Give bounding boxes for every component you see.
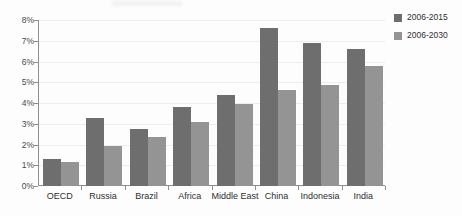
bar — [148, 137, 166, 186]
x-tick-mark — [255, 186, 256, 190]
y-tick-label: 3% — [4, 120, 34, 129]
bar — [278, 90, 296, 186]
y-tick-label: 5% — [4, 78, 34, 87]
x-tick-mark — [125, 186, 126, 190]
bar — [260, 28, 278, 186]
y-tick-label: 2% — [4, 140, 34, 149]
x-tick-label: Indonesia — [298, 192, 341, 202]
x-axis: OECDRussiaBrazilAfricaMiddle EastChinaIn… — [38, 192, 385, 212]
bar — [130, 129, 148, 186]
y-tick-label: 7% — [4, 37, 34, 46]
x-tick-mark — [342, 186, 343, 190]
bar — [365, 66, 383, 186]
bar-group — [168, 20, 211, 186]
legend-label: 2006-2015 — [407, 13, 448, 22]
bar-group — [38, 20, 81, 186]
bar — [43, 159, 61, 186]
x-tick-mark — [385, 186, 386, 190]
x-tick-mark — [212, 186, 213, 190]
bar-group — [125, 20, 168, 186]
y-tick-label: 1% — [4, 161, 34, 170]
bar — [61, 162, 79, 186]
x-tick-label: Brazil — [125, 192, 168, 202]
legend-swatch-icon — [394, 14, 402, 22]
y-axis: 0%1%2%3%4%5%6%7%8% — [0, 0, 34, 216]
bar-chart: 0%1%2%3%4%5%6%7%8% OECDRussiaBrazilAfric… — [0, 0, 462, 216]
bar — [173, 107, 191, 186]
legend-label: 2006-2030 — [407, 31, 448, 40]
bar — [303, 43, 321, 186]
legend-item[interactable]: 2006-2030 — [394, 30, 462, 41]
bar — [86, 118, 104, 186]
y-tick-mark — [34, 186, 38, 187]
legend-item[interactable]: 2006-2015 — [394, 12, 462, 23]
bars-container — [38, 20, 385, 186]
x-tick-label: China — [255, 192, 298, 202]
bar — [321, 85, 339, 186]
bar-group — [342, 20, 385, 186]
x-tick-label: India — [342, 192, 385, 202]
bar — [217, 95, 235, 186]
x-tick-label: Russia — [81, 192, 124, 202]
bar — [347, 49, 365, 186]
y-tick-label: 0% — [4, 182, 34, 191]
bar — [235, 104, 253, 186]
bar — [191, 122, 209, 186]
x-tick-mark — [81, 186, 82, 190]
legend-swatch-icon — [394, 32, 402, 40]
chart-legend: 2006-20152006-2030 — [394, 12, 462, 48]
bar-group — [298, 20, 341, 186]
bar — [104, 146, 122, 186]
y-tick-label: 8% — [4, 16, 34, 25]
x-tick-mark — [298, 186, 299, 190]
bar-group — [81, 20, 124, 186]
bar-group — [212, 20, 255, 186]
x-tick-label: Middle East — [212, 192, 255, 202]
x-tick-label: Africa — [168, 192, 211, 202]
y-tick-label: 4% — [4, 99, 34, 108]
y-tick-label: 6% — [4, 57, 34, 66]
x-tick-mark — [168, 186, 169, 190]
bar-group — [255, 20, 298, 186]
x-tick-label: OECD — [38, 192, 81, 202]
